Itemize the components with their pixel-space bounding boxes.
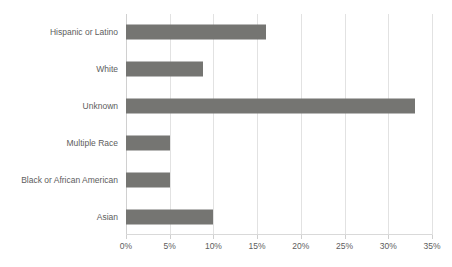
bar-hispanic-or-latino: [126, 25, 266, 40]
y-axis-label-asian: Asian: [0, 198, 118, 235]
x-tick-10: [213, 235, 214, 239]
bar-asian: [126, 209, 213, 224]
bar-chart: Hispanic or Latino White Unknown Multipl…: [0, 0, 452, 267]
x-axis-tick-label-35: 35%: [412, 241, 452, 251]
x-tick-15: [257, 235, 258, 239]
bar-black-or-african-american: [126, 172, 170, 187]
y-axis-label-multiple-race: Multiple Race: [0, 125, 118, 162]
bar-row-black-or-african-american: [126, 161, 432, 198]
x-axis-tick-label-20: 20%: [281, 241, 321, 251]
x-tick-20: [301, 235, 302, 239]
x-axis-tick-label-5: 5%: [150, 241, 190, 251]
y-axis-label-unknown: Unknown: [0, 88, 118, 125]
gridline-35: [432, 14, 433, 235]
x-tick-5: [170, 235, 171, 239]
bar-row-asian: [126, 198, 432, 235]
y-axis-label-black-or-african-american: Black or African American: [0, 161, 118, 198]
caption-clipped: [0, 261, 452, 267]
bar-multiple-race: [126, 135, 170, 150]
x-tick-30: [388, 235, 389, 239]
x-axis-tick-label-30: 30%: [368, 241, 408, 251]
x-axis-tick-label-15: 15%: [237, 241, 277, 251]
y-axis-category-labels: Hispanic or Latino White Unknown Multipl…: [0, 14, 122, 235]
x-tick-0: [126, 235, 127, 239]
x-axis-line: [126, 234, 432, 235]
bar-unknown: [126, 99, 415, 114]
x-tick-25: [345, 235, 346, 239]
y-axis-label-hispanic-or-latino: Hispanic or Latino: [0, 14, 118, 51]
bar-white: [126, 62, 203, 77]
plot-area: [126, 14, 432, 235]
x-axis-tick-label-0: 0%: [106, 241, 146, 251]
bar-row-multiple-race: [126, 125, 432, 162]
y-axis-label-white: White: [0, 51, 118, 88]
bar-row-hispanic-or-latino: [126, 14, 432, 51]
bar-row-unknown: [126, 88, 432, 125]
bar-row-white: [126, 51, 432, 88]
x-axis-tick-label-10: 10%: [193, 241, 233, 251]
x-tick-35: [432, 235, 433, 239]
x-axis-tick-label-25: 25%: [325, 241, 365, 251]
